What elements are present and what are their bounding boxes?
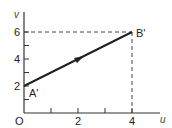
u-tick-label-2: 2: [75, 115, 81, 127]
u-axis-label: u: [160, 114, 166, 125]
origin-label: O: [15, 115, 24, 127]
v-tick-label-4: 4: [14, 53, 20, 65]
v-tick-label-6: 6: [14, 26, 20, 38]
point-a-prime-label: A': [29, 87, 38, 99]
u-axis-ticks: [51, 108, 132, 113]
v-tick-label-2: 2: [14, 80, 20, 92]
point-b-prime-label: B': [136, 27, 145, 39]
v-axis-label: v: [14, 9, 20, 20]
u-tick-label-4: 4: [129, 115, 135, 127]
arrowhead-icon: [74, 56, 84, 63]
uv-plane-diagram: v u O 6 4 2 2 4 A' B': [0, 0, 172, 128]
